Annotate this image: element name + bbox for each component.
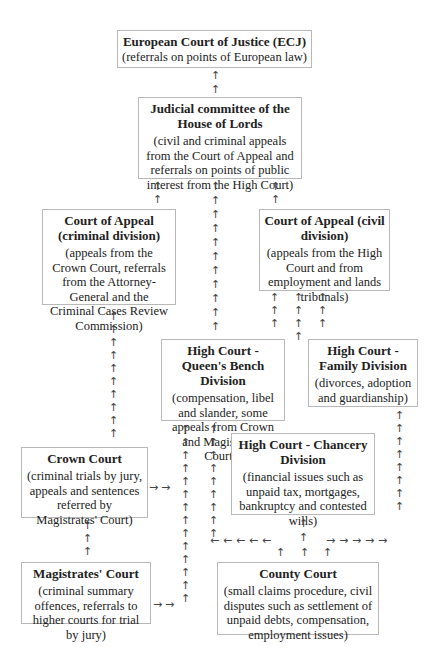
arrow-up-icon: ↑ xyxy=(395,436,404,447)
node-queens-bench-division: High Court - Queen's Bench Division (com… xyxy=(161,339,285,421)
arrow-up-icon: ↑ xyxy=(181,450,190,461)
node-title: European Court of Justice (ECJ) xyxy=(122,34,307,49)
arrow-left-icon: ← xyxy=(262,535,271,546)
arrow-up-icon: ↑ xyxy=(181,567,190,578)
arrow-right-icon: → xyxy=(149,482,158,493)
arrow-up-icon: ↑ xyxy=(181,463,190,474)
arrow-up-icon: ↑ xyxy=(83,546,92,557)
arrow-up-icon: ↑ xyxy=(209,450,218,461)
arrow-up-icon: ↑ xyxy=(294,292,303,303)
arrow-up-icon: ↑ xyxy=(318,305,327,316)
arrow-up-icon: ↑ xyxy=(181,437,190,448)
arrow-up-icon: ↑ xyxy=(181,424,190,435)
arrow-up-icon: ↑ xyxy=(181,476,190,487)
node-crown-court: Crown Court (criminal trials by jury, ap… xyxy=(21,447,148,518)
arrow-up-icon: ↑ xyxy=(109,428,118,439)
arrow-up-icon: ↑ xyxy=(209,489,218,500)
node-chancery-division: High Court - Chancery Division (financia… xyxy=(231,433,375,515)
arrow-up-icon: ↑ xyxy=(318,292,327,303)
arrow-up-icon: ↑ xyxy=(109,376,118,387)
arrow-up-icon: ↑ xyxy=(270,292,279,303)
arrow-up-icon: ↑ xyxy=(211,181,220,192)
arrow-up-icon: ↑ xyxy=(181,502,190,513)
arrow-up-icon: ↑ xyxy=(109,402,118,413)
arrow-up-icon: ↑ xyxy=(181,528,190,539)
arrow-left-icon: ← xyxy=(249,535,258,546)
arrow-up-icon: ↑ xyxy=(181,554,190,565)
arrow-up-icon: ↑ xyxy=(211,321,220,332)
arrow-left-icon: ← xyxy=(236,535,245,546)
node-court-of-appeal-criminal: Court of Appeal (criminal division) (app… xyxy=(42,209,176,305)
arrow-up-icon: ↑ xyxy=(270,318,279,329)
arrow-up-icon: ↑ xyxy=(209,515,218,526)
arrow-up-icon: ↑ xyxy=(395,449,404,460)
node-county-court: County Court (small claims procedure, ci… xyxy=(217,562,379,635)
node-desc: (referrals on points of European law) xyxy=(122,50,307,65)
arrow-right-icon: → xyxy=(352,535,361,546)
arrow-right-icon: → xyxy=(326,535,335,546)
arrow-left-icon: ← xyxy=(223,535,232,546)
arrow-up-icon: ↑ xyxy=(211,70,220,81)
arrow-up-icon: ↑ xyxy=(109,363,118,374)
arrow-up-icon: ↑ xyxy=(294,305,303,316)
arrow-up-icon: ↑ xyxy=(181,541,190,552)
node-title: Crown Court xyxy=(26,451,143,466)
arrow-up-icon: ↑ xyxy=(323,547,332,558)
arrow-up-icon: ↑ xyxy=(276,547,285,558)
arrow-up-icon: ↑ xyxy=(209,476,218,487)
arrow-up-icon: ↑ xyxy=(109,311,118,322)
arrow-up-icon: ↑ xyxy=(395,462,404,473)
node-title: High Court - Queen's Bench Division xyxy=(166,343,280,388)
node-desc: (small claims procedure, civil disputes … xyxy=(222,584,374,642)
arrow-up-icon: ↑ xyxy=(211,223,220,234)
arrow-up-icon: ↑ xyxy=(294,331,303,342)
node-title: High Court - Chancery Division xyxy=(236,437,370,467)
arrow-up-icon: ↑ xyxy=(83,520,92,531)
node-desc: (criminal summary offences, referrals to… xyxy=(26,584,146,642)
arrow-up-icon: ↑ xyxy=(318,318,327,329)
arrow-up-icon: ↑ xyxy=(83,533,92,544)
node-house-of-lords: Judicial committee of the House of Lords… xyxy=(138,97,302,179)
arrow-up-icon: ↑ xyxy=(181,515,190,526)
arrow-up-icon: ↑ xyxy=(211,307,220,318)
arrow-up-icon: ↑ xyxy=(395,501,404,512)
arrow-right-icon: → xyxy=(153,599,162,610)
arrow-up-icon: ↑ xyxy=(109,415,118,426)
arrow-up-icon: ↑ xyxy=(395,488,404,499)
arrow-up-icon: ↑ xyxy=(153,194,162,205)
node-magistrates-court: Magistrates' Court (criminal summary off… xyxy=(21,562,151,624)
arrow-up-icon: ↑ xyxy=(109,389,118,400)
arrow-up-icon: ↑ xyxy=(211,251,220,262)
arrow-up-icon: ↑ xyxy=(299,532,308,543)
arrow-left-icon: ← xyxy=(210,535,219,546)
node-title: Magistrates' Court xyxy=(26,566,146,581)
arrow-up-icon: ↑ xyxy=(211,265,220,276)
arrow-up-icon: ↑ xyxy=(211,279,220,290)
arrow-up-icon: ↑ xyxy=(271,181,280,192)
arrow-up-icon: ↑ xyxy=(109,337,118,348)
arrow-up-icon: ↑ xyxy=(209,437,218,448)
arrow-up-icon: ↑ xyxy=(294,318,303,329)
arrow-up-icon: ↑ xyxy=(109,324,118,335)
arrow-up-icon: ↑ xyxy=(395,423,404,434)
arrow-up-icon: ↑ xyxy=(109,350,118,361)
arrow-up-icon: ↑ xyxy=(300,547,309,558)
arrow-up-icon: ↑ xyxy=(395,475,404,486)
arrow-up-icon: ↑ xyxy=(181,489,190,500)
arrow-up-icon: ↑ xyxy=(209,463,218,474)
arrow-up-icon: ↑ xyxy=(211,195,220,206)
node-title: High Court - Family Division xyxy=(313,343,413,373)
arrow-up-icon: ↑ xyxy=(211,237,220,248)
arrow-up-icon: ↑ xyxy=(211,84,220,95)
arrow-up-icon: ↑ xyxy=(395,410,404,421)
arrow-up-icon: ↑ xyxy=(209,502,218,513)
node-title: Court of Appeal (civil division) xyxy=(264,213,385,243)
arrow-right-icon: → xyxy=(339,535,348,546)
arrow-right-icon: → xyxy=(365,535,374,546)
arrow-up-icon: ↑ xyxy=(271,194,280,205)
arrow-right-icon: → xyxy=(378,535,387,546)
node-title: Judicial committee of the House of Lords xyxy=(143,101,297,131)
node-ecj: European Court of Justice (ECJ) (referra… xyxy=(117,30,312,68)
arrow-up-icon: ↑ xyxy=(211,293,220,304)
arrow-up-icon: ↑ xyxy=(270,305,279,316)
